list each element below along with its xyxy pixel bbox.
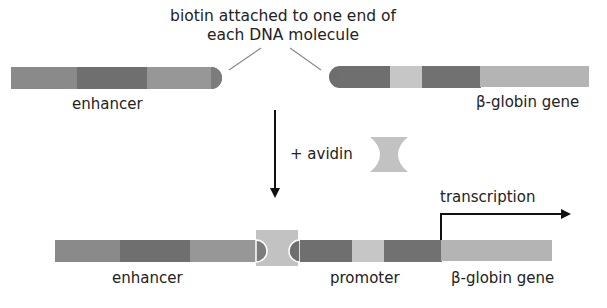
bottom-enhancer-label: enhancer	[112, 270, 183, 287]
segment-light	[390, 66, 423, 88]
biotin-pointer-right	[290, 48, 321, 70]
segment-dark	[300, 240, 353, 262]
avidin-icon	[370, 137, 408, 172]
segment-gene	[441, 240, 552, 261]
transcription-arrow	[441, 214, 566, 240]
bottom-dna-complex	[55, 214, 566, 266]
segment-dark	[339, 66, 391, 88]
biotin-cap-round	[211, 67, 222, 89]
segment-light	[352, 240, 385, 262]
bottom-promoter-label: promoter	[330, 270, 400, 287]
top-right-dna-molecule	[329, 66, 589, 88]
top-gene-label: β-globin gene	[476, 94, 579, 111]
transcription-label: transcription	[440, 189, 535, 206]
segment-medium-light	[147, 67, 212, 89]
segment-medium	[55, 240, 121, 262]
segment-medium-light	[190, 240, 256, 262]
segment-dark-promoter	[422, 66, 481, 88]
segment-gene	[480, 66, 589, 87]
segment-dark-promoter	[384, 240, 442, 262]
add-avidin-label: + avidin	[290, 146, 353, 163]
bottom-gene-label: β-globin gene	[451, 270, 554, 287]
biotin-caption-line2: each DNA molecule	[158, 27, 408, 44]
segment-medium	[11, 67, 78, 89]
segment-dark-enhancer	[120, 240, 191, 262]
top-left-dna-molecule	[11, 67, 222, 89]
biotin-pointer-left	[229, 48, 261, 70]
biotin-caption-line1: biotin attached to one end of	[158, 8, 408, 25]
segment-dark-enhancer	[77, 67, 148, 89]
biotin-cap-round	[329, 66, 340, 88]
top-enhancer-label: enhancer	[72, 96, 143, 113]
